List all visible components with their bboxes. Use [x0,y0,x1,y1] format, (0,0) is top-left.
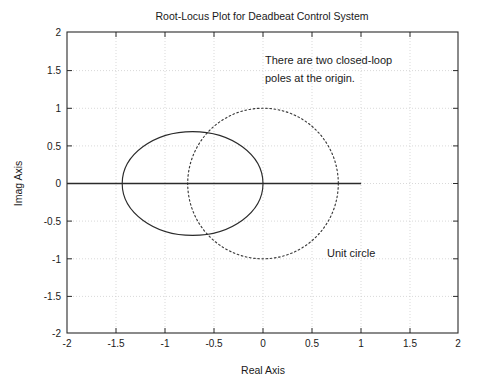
unit-circle-label: Unit circle [327,247,375,259]
root-locus-figure: Root-Locus Plot for Deadbeat Control Sys… [0,0,479,388]
x-tick-label: -1.5 [107,338,125,349]
y-axis-title: Imag Axis [12,161,24,207]
y-tick-label: -1 [52,254,61,265]
x-tick-label: -1 [161,338,170,349]
y-tick-label: 0 [55,178,61,189]
x-tick-label: 1.5 [403,338,417,349]
y-tick-labels: 2 1.5 1 0.5 0 -0.5 -1 -1.5 -2 [44,27,62,339]
y-tick-label: 0.5 [47,141,61,152]
x-tick-label: 1 [358,338,364,349]
x-axis-title: Real Axis [241,364,285,376]
annotation-line-2: poles at the origin. [265,72,355,84]
x-tick-label: 0 [260,338,266,349]
x-tick-label: 0.5 [305,338,319,349]
x-tick-label: 2 [455,338,461,349]
x-tick-label: -2 [63,338,72,349]
root-locus-chart-svg: Root-Locus Plot for Deadbeat Control Sys… [0,0,479,388]
y-tick-label: -2 [52,328,61,339]
x-tick-label: -0.5 [205,338,223,349]
y-tick-label: 1 [55,103,61,114]
y-tick-label: -1.5 [44,291,62,302]
y-tick-label: 1.5 [47,65,61,76]
y-tick-label: -0.5 [44,216,62,227]
y-tick-label: 2 [55,27,61,38]
annotation-line-1: There are two closed-loop [265,54,392,66]
x-tick-labels: -2 -1.5 -1 -0.5 0 0.5 1 1.5 2 [63,338,462,349]
chart-title: Root-Locus Plot for Deadbeat Control Sys… [155,10,368,22]
